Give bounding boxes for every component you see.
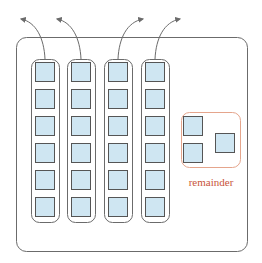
remainder-block [184, 144, 203, 163]
column-2 [68, 60, 96, 223]
block [72, 198, 91, 217]
block [36, 117, 55, 136]
block [109, 63, 128, 82]
block [109, 90, 128, 109]
block [72, 144, 91, 163]
remainder-block [184, 117, 203, 136]
arrow-column-2 [57, 19, 81, 59]
column-3 [105, 60, 133, 223]
block [146, 117, 165, 136]
block [146, 144, 165, 163]
block [109, 144, 128, 163]
column-1 [32, 60, 60, 223]
columns-group [32, 60, 170, 223]
block [146, 63, 165, 82]
block [109, 171, 128, 190]
block [72, 90, 91, 109]
block [36, 144, 55, 163]
block [72, 171, 91, 190]
block [36, 171, 55, 190]
arrows [21, 19, 180, 59]
arrow-column-1 [21, 19, 45, 59]
remainder-block [216, 134, 235, 153]
block [36, 63, 55, 82]
arrow-column-3 [118, 19, 143, 59]
block [146, 90, 165, 109]
remainder-label: remainder [189, 176, 234, 188]
block [109, 198, 128, 217]
block [146, 198, 165, 217]
column-4 [142, 60, 170, 223]
block [36, 198, 55, 217]
arrow-column-4 [155, 19, 180, 59]
diagram-canvas: remainder [0, 0, 262, 263]
block [109, 117, 128, 136]
block [72, 63, 91, 82]
block [72, 117, 91, 136]
block [146, 171, 165, 190]
remainder-group: remainder [182, 113, 241, 189]
block [36, 90, 55, 109]
